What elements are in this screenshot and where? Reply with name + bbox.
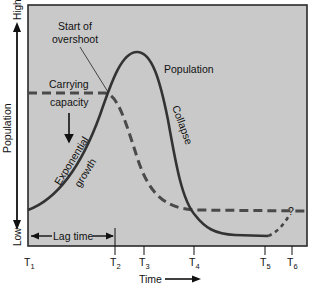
y-axis-arrow: [13, 22, 21, 230]
y-axis-low-label: Low: [12, 227, 23, 246]
population-label: Population: [164, 63, 214, 75]
x-axis-arrow: [165, 276, 201, 283]
tick-t2: T2: [110, 256, 121, 271]
lag-time-label: Lag time: [53, 230, 93, 242]
overshoot-collapse-diagram: High Low Population ? Start of overshoot…: [0, 0, 314, 286]
tick-t3: T3: [139, 256, 150, 271]
carrying-capacity-label-2: capacity: [50, 96, 89, 108]
y-axis-high-label: High: [12, 0, 23, 20]
tick-t1: T1: [24, 256, 35, 271]
y-axis-label: Population: [1, 103, 13, 153]
x-axis-label: Time: [139, 273, 162, 285]
tick-t6: T6: [287, 256, 298, 271]
question-mark: ?: [288, 205, 294, 217]
start-overshoot-label-2: overshoot: [52, 33, 98, 45]
start-overshoot-label-1: Start of: [58, 20, 92, 32]
carrying-capacity-label-1: Carrying: [49, 78, 89, 90]
tick-t4: T4: [189, 256, 200, 271]
tick-t5: T5: [260, 256, 271, 271]
